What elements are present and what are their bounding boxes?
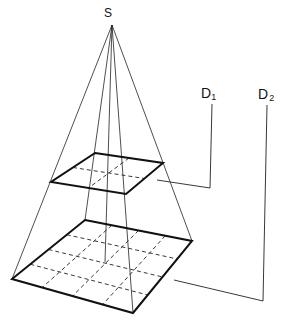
apex-label: S bbox=[104, 6, 112, 20]
projection-rays bbox=[12, 25, 192, 313]
leader-lines bbox=[157, 104, 267, 301]
d2-label: D2 bbox=[258, 86, 274, 103]
plane-d2 bbox=[12, 220, 192, 313]
pyramid-diagram: S D1 D2 bbox=[0, 0, 288, 324]
d1-label: D1 bbox=[201, 85, 216, 102]
